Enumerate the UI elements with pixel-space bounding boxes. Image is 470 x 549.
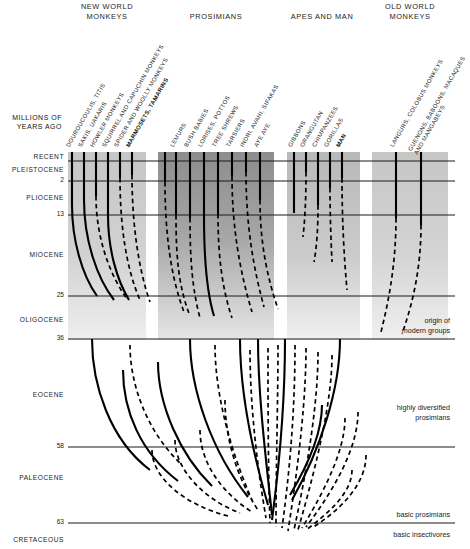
- annotation-line1: basic prosimians: [396, 510, 450, 519]
- epoch-label-cretaceous: CRETACEOUS: [0, 536, 64, 543]
- lineage-lines-deep-dashed: [130, 345, 366, 531]
- group-title-prosimians: PROSIMIANS: [160, 12, 272, 22]
- group-title-line2: MONKEYS: [86, 12, 127, 21]
- group-title-new-world-monkeys: NEW WORLD MONKEYS: [52, 2, 162, 21]
- epoch-label-eocene: EOCENE: [0, 391, 64, 398]
- group-title-line1: OLD WORLD: [385, 2, 435, 11]
- annotation-line1: basic insectivores: [393, 530, 450, 539]
- annotation-line1: origin of: [424, 316, 450, 325]
- group-title-line1: PROSIMIANS: [190, 12, 242, 21]
- band-apes-and-man: [287, 152, 360, 340]
- deep-branch-2: [123, 370, 178, 481]
- tick-value-63: 63: [0, 518, 64, 525]
- annotation-basic-insectivores: basic insectivores: [330, 530, 450, 540]
- lineage-lines-deep-solid: [92, 339, 340, 520]
- axis-title: MILLIONS OF YEARS AGO: [0, 113, 62, 131]
- deep-branch-3: [158, 362, 212, 486]
- deep-branch-9: [290, 405, 322, 495]
- tick-value-13: 13: [0, 210, 64, 217]
- group-title-apes-and-man: APES AND MAN: [277, 12, 367, 22]
- annotation-origin-of-modern-groups: origin of modern groups: [330, 316, 450, 335]
- epoch-label-pleistocene: PLEISTOCENE: [0, 166, 64, 173]
- deep-branch-6: [258, 339, 272, 515]
- group-title-line2: MONKEYS: [389, 12, 430, 21]
- annotation-line1: highly diversified: [397, 403, 450, 412]
- epoch-label-pliocene: PLIOCENE: [0, 194, 64, 201]
- deep-branch-1: [92, 339, 150, 470]
- epoch-label-recent: RECENT: [0, 153, 64, 160]
- annotation-line2: prosimians: [415, 413, 450, 422]
- deep-branch-7: [272, 339, 285, 520]
- group-title-line1: NEW WORLD: [81, 2, 133, 11]
- tick-value-58: 58: [0, 442, 64, 449]
- annotation-line2: modern groups: [402, 326, 450, 335]
- group-title-old-world-monkeys: OLD WORLD MONKEYS: [360, 2, 460, 21]
- group-title-line1: APES AND MAN: [291, 12, 354, 21]
- annotation-basic-prosimians: basic prosimians: [330, 510, 450, 520]
- annotation-highly-diversified-prosimians: highly diversified prosimians: [330, 403, 450, 422]
- tick-value-2: 2: [0, 176, 64, 183]
- epoch-label-paleocene: PALEOCENE: [0, 474, 64, 481]
- group-shading-bands: [68, 152, 448, 340]
- axis-title-line2: YEARS AGO: [17, 123, 62, 130]
- band-old-world-monkeys: [372, 152, 448, 340]
- epoch-label-oligocene: OLIGOCENE: [0, 316, 64, 323]
- axis-title-line1: MILLIONS OF: [12, 114, 62, 121]
- tick-value-25: 25: [0, 291, 64, 298]
- epoch-label-miocene: MIOCENE: [0, 251, 64, 258]
- tick-value-36: 36: [0, 334, 64, 341]
